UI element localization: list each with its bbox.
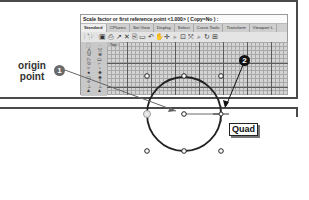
callout-badge-2: 2	[239, 55, 250, 66]
callout-1-leader	[65, 70, 176, 111]
callout-2-leader	[226, 65, 243, 106]
quad-point-left	[144, 111, 151, 118]
origin-point-label: origin point	[17, 60, 47, 82]
osnap-quad-tooltip: Quad	[229, 123, 258, 136]
crosshair-cursor-icon	[213, 106, 229, 122]
control-points	[145, 74, 224, 154]
callout-badge-1: 1	[54, 65, 65, 76]
drawing-overlay	[0, 0, 309, 200]
